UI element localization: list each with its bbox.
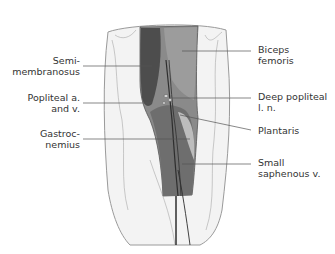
- label-plantaris: Plantaris: [258, 125, 299, 136]
- label-biceps-femoris: Biceps femoris: [258, 44, 294, 66]
- label-gastrocnemius: Gastroc- nemius: [40, 128, 80, 150]
- label-small-saphenous-vein: Small saphenous v.: [258, 157, 320, 179]
- label-semimembranosus: Semi- membranosus: [12, 55, 80, 77]
- label-popliteal-artery-vein: Popliteal a. and v.: [28, 92, 80, 114]
- label-deep-popliteal-lymph-nodes: Deep popliteal l. n.: [258, 91, 327, 113]
